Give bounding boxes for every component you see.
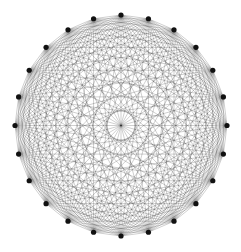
graph-edge <box>94 19 174 221</box>
graph-vertex <box>16 152 21 157</box>
graph-vertex <box>16 94 21 99</box>
graph-edge <box>29 19 148 70</box>
graph-edge <box>46 15 121 47</box>
graph-vertex <box>27 68 32 73</box>
graph-vertex <box>146 16 151 21</box>
graph-edge <box>174 30 223 154</box>
graph-vertex <box>91 230 96 235</box>
graph-vertex <box>91 16 96 21</box>
complete-graph-diagram <box>0 0 241 252</box>
graph-edge <box>94 19 213 70</box>
graph-edge <box>94 19 196 48</box>
graph-vertex <box>12 123 17 128</box>
graph-vertex <box>210 68 215 73</box>
graph-vertex <box>27 178 32 183</box>
graph-edge <box>19 30 68 154</box>
graph-vertex <box>193 45 198 50</box>
graph-edge <box>19 19 94 154</box>
graph-edge <box>46 204 148 233</box>
graph-edge <box>94 181 213 232</box>
graph-vertex <box>221 94 226 99</box>
graph-vertex <box>118 233 123 238</box>
graph-vertex <box>65 27 70 32</box>
graph-edge <box>29 97 223 181</box>
graph-edge <box>46 204 121 236</box>
graph-edge <box>94 30 174 232</box>
graph-vertex <box>210 178 215 183</box>
graph-edge <box>121 15 196 47</box>
graph-vertex <box>65 219 70 224</box>
graph-edge <box>19 70 213 154</box>
graph-edge <box>29 70 223 154</box>
graph-edge <box>94 19 224 97</box>
graph-vertex <box>171 27 176 32</box>
graph-vertex <box>193 201 198 206</box>
graph-edge <box>19 97 213 181</box>
graph-edge <box>15 47 46 125</box>
graph-edge <box>68 30 148 232</box>
graph-edge <box>121 204 196 236</box>
graph-vertex <box>224 123 229 128</box>
graph-vertex <box>43 201 48 206</box>
graph-vertex <box>171 219 176 224</box>
graph-edge <box>196 126 227 204</box>
graph-edge <box>196 47 227 125</box>
graph-edge <box>15 126 46 204</box>
graph-edge <box>19 47 46 154</box>
graph-edge <box>29 181 148 232</box>
graph-vertex <box>43 45 48 50</box>
graph-edge <box>68 19 148 221</box>
graph-edge <box>174 97 223 221</box>
graph-vertex <box>221 152 226 157</box>
graph-vertex <box>118 12 123 17</box>
graph-edge <box>19 97 46 204</box>
graph-edge <box>19 97 68 221</box>
graph-vertex <box>146 230 151 235</box>
